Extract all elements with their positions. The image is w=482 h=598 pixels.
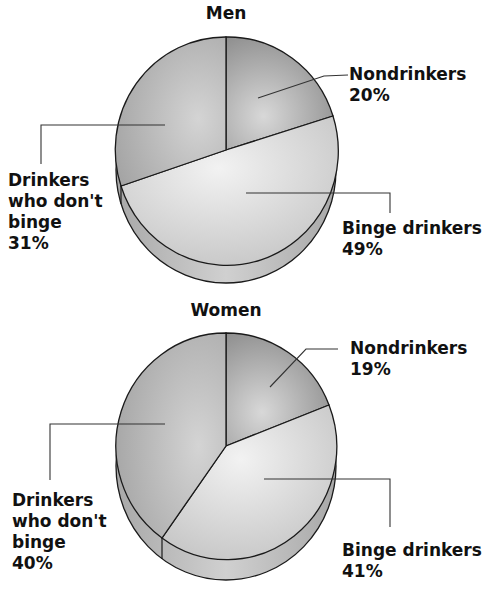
women-chart-title: Women [146, 300, 306, 320]
women-label-nondrinkers: Nondrinkers 19% [350, 338, 467, 380]
men-label-nonbinge: Drinkers who don't binge 31% [8, 170, 103, 254]
women-label-binge: Binge drinkers 41% [342, 540, 482, 582]
men-chart-title: Men [146, 3, 306, 23]
men-label-nondrinkers: Nondrinkers 20% [349, 64, 466, 106]
men-label-binge: Binge drinkers 49% [342, 218, 482, 260]
women-label-nonbinge: Drinkers who don't binge 40% [12, 490, 107, 574]
